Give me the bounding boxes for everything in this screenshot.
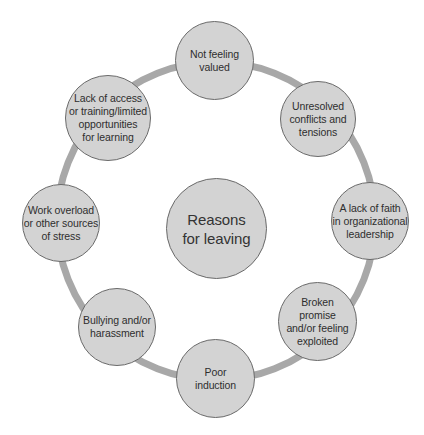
- node-broken-promise: Broken promise and/or feeling exploited: [278, 282, 357, 361]
- node-lack-of-access-training: Lack of access or training/limited oppor…: [65, 75, 151, 161]
- node-work-overload: Work overload or other sources of stress: [22, 184, 100, 262]
- node-unresolved-conflicts: Unresolved conflicts and tensions: [280, 81, 356, 157]
- node-label: A lack of faith in organizational leader…: [333, 202, 408, 241]
- node-label: Not feeling valued: [190, 48, 239, 74]
- center-node-reasons-for-leaving: Reasons for leaving: [166, 178, 267, 279]
- node-label: Broken promise and/or feeling exploited: [286, 296, 348, 348]
- node-not-feeling-valued: Not feeling valued: [175, 21, 254, 100]
- node-label: Bullying and/or harassment: [83, 314, 151, 340]
- node-bullying-harassment: Bullying and/or harassment: [78, 288, 156, 366]
- node-label: Poor induction: [195, 366, 236, 392]
- node-lack-of-faith-leadership: A lack of faith in organizational leader…: [331, 182, 409, 260]
- node-label: Lack of access or training/limited oppor…: [69, 92, 147, 144]
- node-label: Work overload or other sources of stress: [24, 204, 98, 243]
- center-node-label: Reasons for leaving: [182, 210, 250, 248]
- node-label: Unresolved conflicts and tensions: [289, 100, 346, 139]
- node-poor-induction: Poor induction: [176, 339, 255, 418]
